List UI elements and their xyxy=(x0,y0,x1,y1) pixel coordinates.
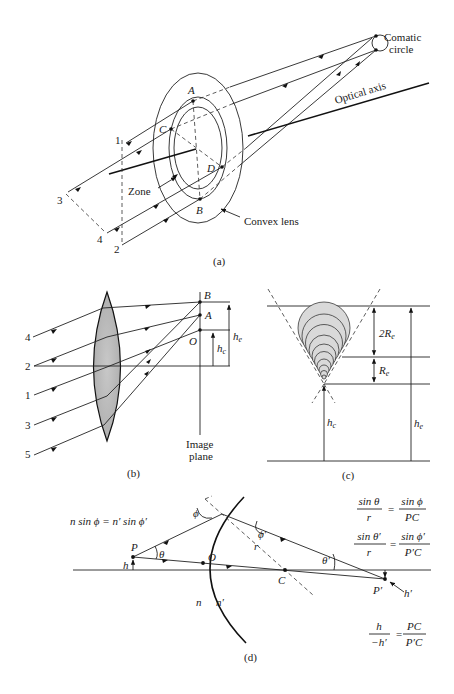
radius-r-label: r xyxy=(254,540,259,552)
h-label-d: h xyxy=(123,559,129,571)
svg-text:P′C: P′C xyxy=(405,636,423,648)
re-label: Re xyxy=(378,364,390,378)
point-o-label-d: O xyxy=(208,551,216,563)
convex-lens-label: Convex lens xyxy=(244,215,299,227)
panel-a: Comatic circle Optical axis A C D B Zone… xyxy=(57,31,429,268)
h-e-label-c: he xyxy=(414,417,424,431)
comatic-circle-label-1: Comatic xyxy=(384,31,421,43)
caption-a: (a) xyxy=(213,255,226,268)
svg-text:=: = xyxy=(390,538,396,550)
point-a-label-b: A xyxy=(204,309,212,321)
svg-text:−h′: −h′ xyxy=(371,636,387,648)
h-c-label-b: hc xyxy=(217,342,227,356)
point-b-label: B xyxy=(196,204,203,216)
point-p-label: P xyxy=(130,541,138,553)
svg-text:PC: PC xyxy=(406,620,422,632)
ray-3-label: 3 xyxy=(57,194,63,206)
comatic-circle-label-2: circle xyxy=(389,43,414,55)
ray-5-label-b: 5 xyxy=(25,448,31,460)
optical-axis-line xyxy=(248,83,429,136)
caption-d: (d) xyxy=(244,651,257,664)
image-plane-label-2: plane xyxy=(189,450,213,462)
comatic-circles xyxy=(298,302,350,379)
svg-text:sin ϕ: sin ϕ xyxy=(401,495,423,507)
point-c-label: C xyxy=(159,123,167,135)
n-prime-label: n′ xyxy=(216,596,225,608)
point-a-label: A xyxy=(187,84,195,96)
ray-2-label: 2 xyxy=(114,243,120,255)
zone-label: Zone xyxy=(128,185,151,197)
ray-4-label-b: 4 xyxy=(25,331,31,343)
ray-4-label: 4 xyxy=(97,233,103,245)
point-c-label-d: C xyxy=(278,574,286,586)
optical-axis-label: Optical axis xyxy=(333,79,387,106)
ray-2-label-b: 2 xyxy=(25,360,31,372)
equation-1: sin θ r = sin ϕ PC xyxy=(357,495,426,523)
point-p-prime-label: P′ xyxy=(372,584,383,596)
point-b-label-b: B xyxy=(204,289,211,301)
svg-text:=: = xyxy=(396,628,402,640)
h-c-label-c: hc xyxy=(327,416,337,430)
ray-3-label-b: 3 xyxy=(25,419,31,431)
panel-b: 4 2 1 3 5 B A O hc he Image plane (b) xyxy=(25,289,243,480)
biconvex-lens xyxy=(94,292,121,441)
svg-text:PC: PC xyxy=(404,511,420,523)
svg-text:sin ϕ′: sin ϕ′ xyxy=(401,530,425,542)
ray-1-label-b: 1 xyxy=(25,389,31,401)
coma-aberration-figure: Comatic circle Optical axis A C D B Zone… xyxy=(0,0,454,694)
image-plane-label-1: Image xyxy=(186,438,214,450)
ray-1-label: 1 xyxy=(115,134,121,146)
caption-b: (b) xyxy=(127,467,140,480)
panel-d: P O C P′ h h′ θ θ′ ϕ ϕ′ r n n′ n sin ϕ =… xyxy=(70,495,431,664)
svg-text:sin θ′: sin θ′ xyxy=(357,530,381,542)
point-o-label-b: O xyxy=(189,335,197,347)
svg-text:P′C: P′C xyxy=(404,546,422,558)
svg-text:h: h xyxy=(376,620,382,632)
two-re-label: 2Re xyxy=(379,327,395,341)
svg-text:=: = xyxy=(388,503,394,515)
svg-text:sin θ: sin θ xyxy=(359,495,381,507)
caption-c: (c) xyxy=(342,469,355,482)
equation-2: sin θ′ r = sin ϕ′ P′C xyxy=(354,530,430,558)
snell-equation: n sin ϕ = n′ sin ϕ′ xyxy=(70,515,147,527)
equation-3: h −h′ = PC P′C xyxy=(369,620,426,648)
zone-inner-ellipse xyxy=(174,107,222,189)
theta-label: θ xyxy=(159,548,165,560)
h-prime-label: h′ xyxy=(404,587,413,599)
phi-prime-label: ϕ′ xyxy=(258,528,267,540)
h-e-label-b: he xyxy=(233,330,243,344)
svg-text:r: r xyxy=(367,546,372,558)
theta-prime-label: θ′ xyxy=(322,554,330,566)
n-label: n xyxy=(196,596,202,608)
panel-c: 2Re Re hc he (c) xyxy=(267,289,430,482)
point-d-label: D xyxy=(206,162,215,174)
svg-text:r: r xyxy=(367,511,372,523)
phi-label: ϕ xyxy=(193,507,199,519)
